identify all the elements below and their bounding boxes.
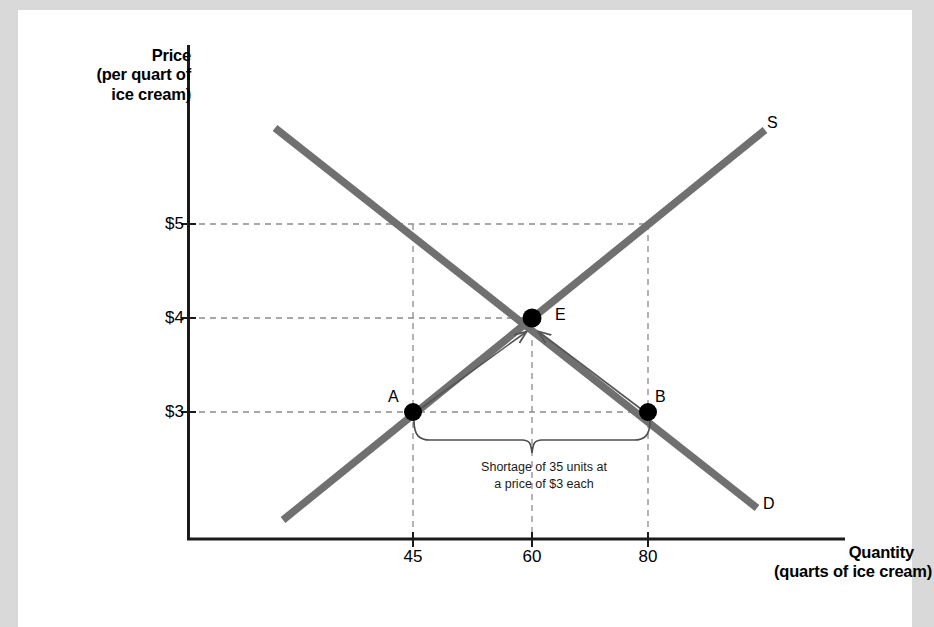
shortage-brace xyxy=(414,421,650,453)
y-tick-label-3: $3 xyxy=(165,402,184,422)
figure-card: Price(per quart ofice cream) Quantity(qu… xyxy=(18,10,912,627)
x-tick-label-60: 60 xyxy=(512,547,552,567)
supply-curve-label: S xyxy=(767,114,778,133)
arrow-a-to-e xyxy=(420,332,526,409)
x-axis-title-line1: Quantity xyxy=(849,543,914,561)
shortage-annotation-line2: a price of $3 each xyxy=(494,477,593,491)
point-a-marker xyxy=(404,403,422,421)
y-tick-label-4: $4 xyxy=(165,308,184,328)
x-tick-label-80: 80 xyxy=(628,547,668,567)
y-axis-title: Price(per quart ofice cream) xyxy=(96,46,191,104)
axis-ticks xyxy=(181,224,648,547)
x-tick-label-45: 45 xyxy=(393,547,433,567)
point-label-e: E xyxy=(555,306,566,325)
y-axis-title-line2: (per quart of xyxy=(96,65,191,83)
shortage-annotation-line1: Shortage of 35 units at xyxy=(481,460,607,474)
point-label-b: B xyxy=(655,388,666,407)
y-axis-title-line1: Price xyxy=(152,46,191,64)
x-axis-title: Quantity(quarts of ice cream) xyxy=(774,543,914,582)
x-axis-title-line2: (quarts of ice cream) xyxy=(774,562,932,580)
point-e-marker xyxy=(523,309,542,328)
demand-curve-label: D xyxy=(763,495,775,514)
adjustment-arrows xyxy=(420,332,641,409)
y-tick-label-5: $5 xyxy=(165,214,184,234)
y-axis-title-line3: ice cream) xyxy=(111,85,191,103)
shortage-annotation: Shortage of 35 units ata price of $3 eac… xyxy=(439,459,649,493)
point-label-a: A xyxy=(388,388,399,407)
arrow-b-to-e xyxy=(539,332,641,409)
